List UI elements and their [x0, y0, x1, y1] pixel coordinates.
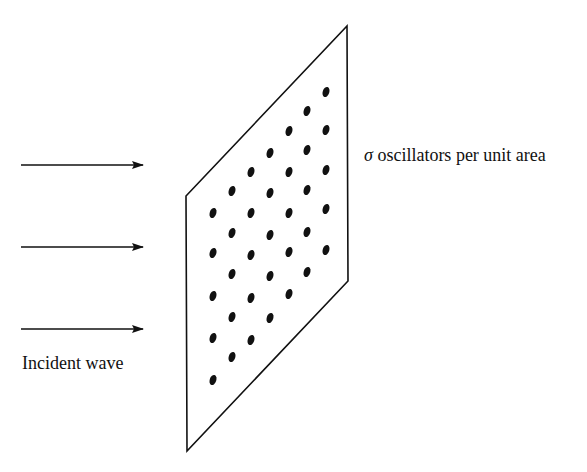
oscillator-dot [321, 86, 330, 98]
oscillator-dot [284, 246, 293, 258]
incident-wave-arrows [21, 165, 143, 329]
oscillator-density-label: σ oscillators per unit area [364, 146, 546, 164]
oscillator-dot [208, 374, 217, 386]
oscillator-dot [302, 184, 311, 196]
oscillator-dot [302, 144, 311, 156]
oscillator-dot [265, 229, 274, 241]
oscillator-dot [208, 207, 217, 219]
oscillator-dot [284, 125, 293, 137]
oscillator-dot [246, 207, 255, 219]
oscillator-density-text: oscillators per unit area [373, 145, 546, 165]
oscillator-dot [321, 124, 330, 136]
oscillator-dot [227, 185, 236, 197]
oscillator-dot [227, 351, 236, 363]
oscillator-sheet-diagram [0, 0, 587, 472]
oscillator-dot [246, 334, 255, 346]
oscillator-dot [302, 105, 311, 117]
oscillator-dot [208, 290, 217, 302]
oscillator-dot [321, 164, 330, 176]
oscillator-dot [265, 147, 274, 159]
oscillator-dot [321, 244, 330, 256]
oscillator-dot [227, 311, 236, 323]
oscillator-dot [227, 227, 236, 239]
oscillator-dot [284, 207, 293, 219]
oscillator-dot [321, 203, 330, 215]
oscillator-dot [208, 332, 217, 344]
oscillator-dot [302, 266, 311, 278]
oscillator-dot [265, 187, 274, 199]
oscillator-dot [246, 249, 255, 261]
incident-wave-label: Incident wave [22, 354, 123, 372]
oscillator-dot [246, 166, 255, 178]
oscillator-dot [246, 292, 255, 304]
oscillator-dot [302, 226, 311, 238]
oscillator-dots [208, 86, 330, 386]
oscillator-dot [265, 270, 274, 282]
sigma-symbol: σ [364, 145, 373, 165]
oscillator-dot [208, 247, 217, 259]
oscillator-dot [265, 312, 274, 324]
oscillator-dot [284, 166, 293, 178]
oscillator-dot [227, 268, 236, 280]
oscillator-dot [284, 288, 293, 300]
